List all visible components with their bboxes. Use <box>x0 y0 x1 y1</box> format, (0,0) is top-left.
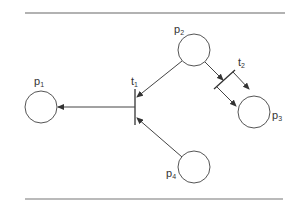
label-t2: t2 <box>238 56 245 69</box>
label-p1: p1 <box>34 75 44 88</box>
place-p4 <box>178 151 210 183</box>
label-p2: p2 <box>174 23 184 36</box>
arc-p2-t2 <box>205 62 223 80</box>
place-p2 <box>178 34 210 66</box>
place-p1 <box>25 91 57 123</box>
arc-t2-p3-b <box>217 87 236 106</box>
arc-p2-t1 <box>137 61 182 97</box>
arc-p4-t1 <box>137 118 182 157</box>
label-p3: p3 <box>272 109 282 122</box>
label-p4: p4 <box>166 167 176 180</box>
arc-t2-p3-a <box>233 72 249 89</box>
petri-net-diagram: p1 p2 p3 p4 t1 t2 <box>0 0 299 211</box>
label-t1: t1 <box>131 75 138 88</box>
diagram-svg: p1 p2 p3 p4 t1 t2 <box>0 0 299 211</box>
place-p3 <box>238 96 270 128</box>
transition-t2 <box>214 70 235 89</box>
